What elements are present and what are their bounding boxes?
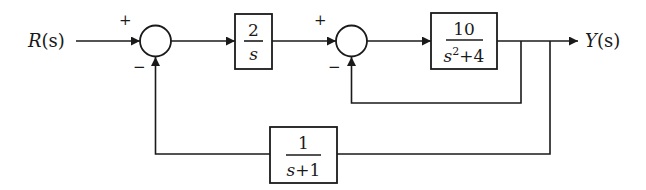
sum1-minus-sign: − — [133, 58, 146, 76]
feedback-denominator: s+1 — [287, 160, 321, 180]
sum2-minus-sign: − — [328, 58, 341, 76]
feedback-block: 1 s+1 — [270, 127, 337, 183]
feedback-numerator: 1 — [298, 133, 309, 153]
controller-denominator: s — [249, 44, 258, 64]
summing-junction-1 — [140, 26, 171, 57]
outer-feedback-path-left — [156, 57, 271, 154]
input-label: R(s) — [27, 30, 65, 51]
plant-denominator: s2+4 — [444, 45, 485, 66]
block-diagram: R(s) + − 2 s + − 10 s2+4 Y(s) — [0, 0, 646, 190]
plant-block: 10 s2+4 — [431, 13, 497, 69]
plant-numerator: 10 — [453, 19, 475, 39]
output-label: Y(s) — [585, 30, 620, 51]
controller-block: 2 s — [235, 14, 272, 69]
controller-numerator: 2 — [248, 20, 259, 40]
summing-junction-2 — [336, 26, 367, 57]
sum1-plus-sign: + — [119, 11, 132, 29]
sum2-plus-sign: + — [314, 11, 327, 29]
